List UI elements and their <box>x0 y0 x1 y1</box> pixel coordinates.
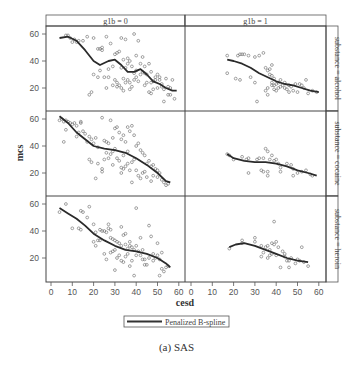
data-point <box>131 259 134 262</box>
data-point <box>88 135 91 138</box>
data-point <box>109 119 112 122</box>
data-point <box>103 253 106 256</box>
data-point <box>260 244 263 247</box>
row-strip-label: substance = heroin <box>333 209 342 269</box>
data-point <box>141 56 144 59</box>
data-point <box>65 203 68 206</box>
data-point <box>88 158 91 161</box>
data-point <box>286 88 289 91</box>
x-tick-label: 50 <box>153 287 163 297</box>
data-point <box>97 76 100 79</box>
data-point <box>171 79 174 82</box>
data-point <box>86 35 89 38</box>
data-point <box>79 228 82 231</box>
data-point <box>135 254 138 257</box>
data-point <box>239 79 242 82</box>
data-point <box>99 69 102 72</box>
y-tick-label: 20 <box>30 168 40 178</box>
data-point <box>141 249 144 252</box>
data-point <box>109 42 112 45</box>
data-point <box>133 134 136 137</box>
data-point <box>82 39 85 42</box>
data-point <box>92 37 95 40</box>
data-point <box>88 205 91 208</box>
data-point <box>160 267 163 270</box>
data-point <box>126 57 129 60</box>
data-point <box>154 76 157 79</box>
data-point <box>266 257 269 260</box>
data-point <box>163 270 166 273</box>
data-point <box>262 52 265 55</box>
panel <box>58 116 170 186</box>
data-point <box>90 91 93 94</box>
data-point <box>120 172 123 175</box>
data-point <box>118 254 121 257</box>
data-point <box>122 58 125 61</box>
data-point <box>128 265 131 268</box>
x-tick-label: 30 <box>250 287 260 297</box>
data-point <box>111 84 114 87</box>
data-point <box>258 54 261 57</box>
data-point <box>139 149 142 152</box>
data-point <box>266 87 269 90</box>
data-point <box>75 135 78 138</box>
x-tick-label: 20 <box>229 287 239 297</box>
data-point <box>275 89 278 92</box>
data-point <box>234 77 237 80</box>
data-point <box>247 54 250 57</box>
data-point <box>131 124 134 127</box>
row-strip: substance = alcohol <box>326 26 342 111</box>
data-point <box>173 97 176 100</box>
data-point <box>118 159 121 162</box>
data-point <box>116 257 119 260</box>
data-point <box>160 251 163 254</box>
row-strip-label: substance = alcohol <box>333 37 342 101</box>
x-tick-label: 0 <box>189 287 194 297</box>
data-point <box>135 54 138 57</box>
data-point <box>150 92 153 95</box>
row-strip: substance = heroin <box>326 196 342 282</box>
y-axis: 204060204060204060 <box>30 29 46 263</box>
data-point <box>71 41 74 44</box>
data-point <box>103 76 106 79</box>
data-point <box>150 235 153 238</box>
data-point <box>145 81 148 84</box>
x-tick-label: 40 <box>131 287 141 297</box>
x-axis: 01020304050600102030405060 <box>49 282 324 297</box>
data-point <box>273 220 276 223</box>
data-point <box>262 157 265 160</box>
data-point <box>290 164 293 167</box>
data-point <box>124 243 127 246</box>
data-point <box>105 258 108 261</box>
data-point <box>114 269 117 272</box>
data-point <box>294 262 297 265</box>
data-point <box>122 89 125 92</box>
data-point <box>128 240 131 243</box>
data-point <box>101 49 104 52</box>
data-point <box>135 244 138 247</box>
data-point <box>137 174 140 177</box>
data-point <box>82 211 85 214</box>
figure-caption: (a) SAS <box>0 341 353 353</box>
data-point <box>128 169 131 172</box>
data-point <box>152 174 155 177</box>
data-point <box>88 93 91 96</box>
row-strip: substance = cocaine <box>326 111 342 196</box>
data-point <box>137 142 140 145</box>
data-point <box>120 87 123 90</box>
data-point <box>114 239 117 242</box>
data-point <box>94 177 97 180</box>
data-point <box>122 134 125 137</box>
x-tick-label: 30 <box>110 287 120 297</box>
data-point <box>109 228 112 231</box>
data-point <box>266 150 269 153</box>
data-point <box>163 100 166 103</box>
x-tick-label: 0 <box>49 287 54 297</box>
row-strip-label: substance = cocaine <box>333 121 342 185</box>
data-point <box>262 251 265 254</box>
data-point <box>139 73 142 76</box>
data-point <box>133 33 136 36</box>
data-point <box>137 39 140 42</box>
data-point <box>254 81 257 84</box>
data-point <box>124 38 127 41</box>
